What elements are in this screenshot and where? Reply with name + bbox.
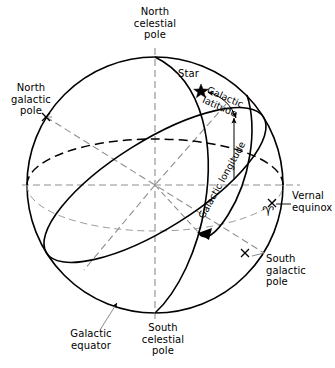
sphere-drawing <box>0 0 335 368</box>
label-south-galactic-pole: South galactic pole <box>266 253 335 288</box>
node-radius-axis <box>155 185 198 232</box>
label-north-galactic-pole: North galactic pole <box>0 82 62 117</box>
galactic-equator-leader <box>100 303 117 330</box>
aries-symbol-icon: ♈ <box>262 204 274 219</box>
label-star: Star <box>178 68 218 80</box>
label-galactic-equator: Galactic equator <box>58 328 124 351</box>
celestial-sphere-diagram: North celestial pole North galactic pole… <box>0 0 335 368</box>
label-south-celestial-pole: South celestial pole <box>132 322 194 357</box>
label-vernal-equinox: Vernal equinox <box>292 190 335 213</box>
lower-left-radius-axis <box>84 185 155 270</box>
label-north-celestial-pole: North celestial pole <box>116 6 194 41</box>
